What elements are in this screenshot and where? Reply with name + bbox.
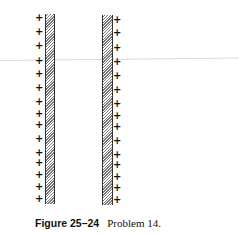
plus-charge-icon: + [113,122,121,132]
plus-charge-icon: + [35,97,43,107]
plus-charge-icon: + [113,183,121,193]
right-plate [102,15,113,205]
left-plate [45,14,55,204]
plus-charge-icon: + [113,99,121,109]
plus-charge-icon: + [113,195,121,205]
plus-charge-icon: + [35,158,43,168]
plus-charge-icon: + [113,71,121,81]
plus-charge-icon: + [35,27,43,37]
plus-charge-icon: + [35,13,43,23]
plus-charge-icon: + [113,43,121,53]
plus-charge-icon: + [113,85,121,95]
plus-charge-icon: + [113,136,121,146]
plus-charge-icon: + [35,120,43,130]
plus-charge-icon: + [35,41,43,51]
plus-charge-icon: + [113,172,121,182]
plus-charge-icon: + [35,170,43,180]
plus-charge-icon: + [35,69,43,79]
plus-charge-icon: + [35,182,43,192]
figure-label: Figure 25–24 [35,217,99,229]
plus-charge-icon: + [113,160,121,170]
plus-charge-icon: + [113,15,121,25]
figure-caption: Figure 25–24Problem 14. [35,213,161,231]
plus-charge-icon: + [35,83,43,93]
plus-charge-icon: + [35,56,43,66]
plus-charge-icon: + [113,28,121,38]
plus-charge-icon: + [35,134,43,144]
plus-charge-icon: + [113,111,121,121]
plus-charge-icon: + [35,194,43,204]
plus-charge-icon: + [35,109,43,119]
caption-text: Problem 14. [107,217,161,229]
plus-charge-icon: + [113,57,121,67]
